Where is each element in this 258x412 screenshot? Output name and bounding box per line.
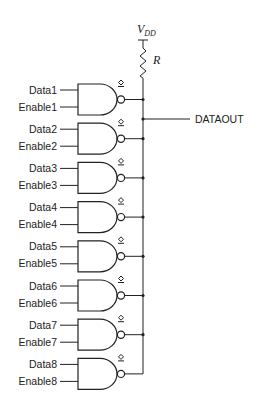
junction-dot: [141, 117, 144, 120]
nand-gate-body: [78, 280, 117, 311]
open-drain-icon: [118, 237, 124, 244]
inversion-bubble: [117, 174, 124, 181]
open-drain-icon: [118, 80, 124, 87]
enable-input-label: Enable6: [18, 297, 57, 309]
nand-gate-6: Data6Enable6: [18, 276, 144, 311]
nand-gate-8: Data8Enable8: [18, 354, 143, 389]
resistor-icon: [140, 48, 146, 78]
nand-gate-2: Data2Enable2: [18, 119, 144, 154]
nand-gate-body: [78, 202, 117, 233]
enable-input-label: Enable2: [18, 140, 57, 152]
data-input-label: Data6: [29, 280, 57, 292]
enable-input-label: Enable8: [18, 375, 57, 387]
enable-input-label: Enable7: [18, 336, 57, 348]
data-input-label: Data1: [29, 84, 57, 96]
data-input-label: Data7: [29, 319, 57, 331]
junction-dot: [141, 294, 144, 297]
open-drain-icon: [118, 315, 124, 322]
inversion-bubble: [117, 370, 124, 377]
inversion-bubble: [117, 253, 124, 260]
inversion-bubble: [117, 135, 124, 142]
dataout-label: DATAOUT: [195, 113, 244, 125]
nand-gate-body: [78, 358, 117, 389]
junction-dot: [141, 255, 144, 258]
inversion-bubble: [117, 331, 124, 338]
junction-dot: [141, 333, 144, 336]
nand-gate-7: Data7Enable7: [18, 315, 144, 350]
nand-gate-5: Data5Enable5: [18, 237, 144, 272]
junction-dot: [141, 176, 144, 179]
inversion-bubble: [117, 96, 124, 103]
vdd-label: VDD: [137, 22, 156, 38]
nand-gate-body: [78, 162, 117, 193]
resistor-label: R: [152, 53, 161, 67]
nand-gate-body: [78, 241, 117, 272]
nand-gate-body: [78, 84, 117, 115]
enable-input-label: Enable5: [18, 257, 57, 269]
open-drain-icon: [118, 119, 124, 126]
open-drain-icon: [118, 276, 124, 283]
open-drain-icon: [118, 198, 124, 205]
junction-dot: [141, 216, 144, 219]
nand-gate-3: Data3Enable3: [18, 158, 144, 193]
junction-dot: [141, 137, 144, 140]
data-input-label: Data8: [29, 358, 57, 370]
data-input-label: Data5: [29, 240, 57, 252]
inversion-bubble: [117, 292, 124, 299]
enable-input-label: Enable1: [18, 101, 57, 113]
nand-gate-4: Data4Enable4: [18, 198, 144, 233]
data-input-label: Data3: [29, 162, 57, 174]
data-input-label: Data2: [29, 123, 57, 135]
enable-input-label: Enable3: [18, 179, 57, 191]
data-input-label: Data4: [29, 201, 57, 213]
open-drain-bus-diagram: VDD R DATAOUT Data1Enable1Data2Enable2Da…: [0, 0, 258, 412]
nand-gate-body: [78, 123, 117, 154]
open-drain-icon: [118, 158, 124, 165]
nand-gate-body: [78, 319, 117, 350]
enable-input-label: Enable4: [18, 218, 57, 230]
open-drain-icon: [118, 354, 124, 361]
inversion-bubble: [117, 214, 124, 221]
junction-dot: [141, 98, 144, 101]
nand-gate-1: Data1Enable1: [18, 80, 144, 115]
